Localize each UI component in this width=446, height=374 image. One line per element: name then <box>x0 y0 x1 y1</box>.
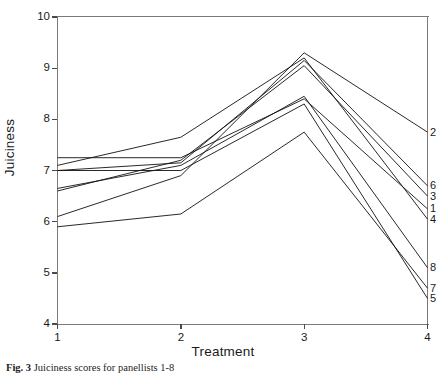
caption-figure-number: Fig. 3 <box>6 362 31 373</box>
series-line-6 <box>58 60 428 185</box>
y-axis-title: Juiciness <box>2 103 17 193</box>
series-label-3: 3 <box>430 191 446 202</box>
series-label-5: 5 <box>430 293 446 304</box>
figure-caption: Fig. 3 Juiciness scores for panellists 1… <box>6 362 442 374</box>
series-lines <box>0 0 446 374</box>
series-line-2 <box>58 53 428 217</box>
series-line-5 <box>58 104 428 298</box>
caption-body: Juiciness scores for panellists 1-8 <box>34 362 175 373</box>
x-axis-title: Treatment <box>0 344 446 359</box>
series-line-8 <box>58 96 428 267</box>
figure-container: 10987654 1234 26314875 Juiciness Treatme… <box>0 0 446 374</box>
series-label-4: 4 <box>430 214 446 225</box>
series-line-1 <box>58 99 428 209</box>
series-label-2: 2 <box>430 127 446 138</box>
series-label-8: 8 <box>430 262 446 273</box>
series-line-4 <box>58 58 428 219</box>
